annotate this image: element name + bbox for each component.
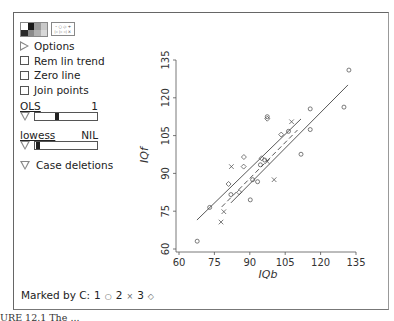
- fit-lines: [197, 85, 348, 220]
- svg-text:75: 75: [208, 257, 221, 268]
- svg-text:120: 120: [160, 88, 171, 107]
- svg-text:120: 120: [311, 257, 330, 268]
- svg-text:135: 135: [346, 257, 365, 268]
- marker-legend: Marked by C: 1 ○ 2 × 3 ◇: [21, 289, 154, 301]
- svg-text:105: 105: [160, 126, 171, 145]
- cross-marker-icon: ×: [126, 292, 133, 301]
- legend-value-2: 2: [116, 289, 123, 301]
- x-axis-label: IQb: [259, 268, 278, 281]
- svg-text:90: 90: [160, 167, 171, 180]
- figure-caption: URE 12.1 The ...: [0, 312, 79, 321]
- legend-prefix: Marked by C:: [21, 289, 90, 301]
- diamond-marker-icon: ◇: [148, 292, 154, 301]
- data-points: [195, 68, 351, 243]
- svg-text:75: 75: [160, 205, 171, 218]
- y-axis-label: IQf: [138, 145, 151, 163]
- scatter-plot[interactable]: 607590105120135607590105120135 IQb IQf: [0, 0, 394, 321]
- svg-text:60: 60: [173, 257, 186, 268]
- svg-text:135: 135: [160, 50, 171, 69]
- legend-value-3: 3: [137, 289, 144, 301]
- svg-text:90: 90: [243, 257, 256, 268]
- svg-text:60: 60: [160, 243, 171, 256]
- circle-marker-icon: ○: [105, 292, 112, 301]
- svg-text:105: 105: [276, 257, 295, 268]
- legend-value-1: 1: [94, 289, 101, 301]
